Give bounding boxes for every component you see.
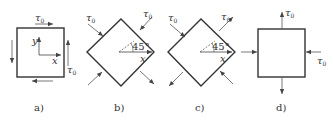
angle-label: 45°	[212, 41, 230, 52]
y-axis-label: y	[31, 35, 38, 46]
x-axis-label: x	[220, 53, 226, 64]
panel-a: y x τ0 τ0 a)	[12, 12, 77, 113]
tau-label-top: τ0	[35, 12, 45, 24]
caption-d: d)	[276, 102, 286, 113]
stress-arrow-bottom-right	[220, 71, 233, 84]
tau-label-right: τ0	[317, 55, 327, 67]
panel-c: 45° x τ0 τ0 c)	[168, 11, 235, 113]
element-square	[258, 29, 305, 77]
stress-arrow-bottom-left	[88, 72, 102, 85]
element-square	[17, 28, 64, 77]
tau-label-right: τ0	[143, 8, 153, 20]
x-axis-label: x	[52, 55, 58, 66]
tau-label-right: τ0	[67, 64, 77, 76]
caption-c: c)	[195, 102, 205, 113]
x-axis-label: x	[140, 53, 146, 64]
tau-label-right: τ0	[221, 11, 231, 23]
tau-label-top: τ0	[285, 7, 295, 19]
panel-d: τ0 τ0 d)	[241, 7, 327, 113]
angle-label: 45°	[132, 41, 150, 52]
caption-b: b)	[114, 102, 124, 113]
stress-arrow-bottom-left	[169, 72, 183, 86]
panel-b: 45° x τ0 τ0 b)	[86, 8, 154, 113]
tau-label-left: τ0	[168, 12, 178, 24]
stress-diagram: y x τ0 τ0 a) 45° x τ0 τ0 b) 45° x τ0 τ0 …	[0, 0, 333, 124]
stress-arrow-bottom-right	[140, 71, 154, 84]
tau-label-left: τ0	[86, 12, 96, 24]
stress-arrow-top-left	[170, 24, 185, 37]
caption-a: a)	[34, 102, 44, 113]
stress-arrow-top-left	[88, 24, 103, 36]
